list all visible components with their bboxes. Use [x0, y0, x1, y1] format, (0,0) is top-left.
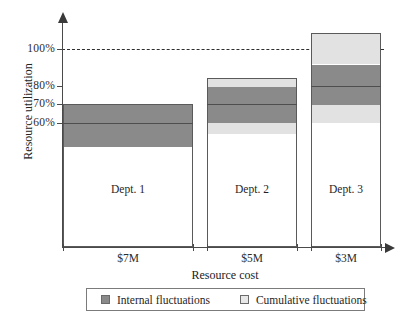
bar-dept1-divider-60 — [63, 123, 193, 124]
x-tick-mark-4 — [311, 244, 312, 251]
x-axis-title: Resource cost — [62, 268, 388, 283]
x-tick-mark-origin — [63, 244, 64, 251]
x-tick-label-7m: $7M — [88, 252, 168, 264]
legend-label-internal: Internal fluctuations — [117, 294, 210, 306]
x-tick-mark-1 — [193, 244, 194, 251]
bar-dept2-divider-70 — [207, 104, 297, 105]
y-tick-mark-100 — [57, 49, 63, 50]
chart-legend: Internal fluctuations Cumulative fluctua… — [86, 288, 365, 311]
y-axis-arrow-icon — [58, 12, 68, 23]
x-tick-mark-2 — [207, 244, 208, 251]
x-tick-label-5m: $5M — [212, 252, 292, 264]
x-axis-arrow-icon — [385, 243, 395, 253]
y-axis-title: Resource utilization — [21, 32, 36, 192]
bar-dept3-band-internal — [312, 65, 380, 105]
bar-dept2-band-cumulative-top — [208, 79, 296, 87]
x-tick-mark-3 — [297, 244, 298, 251]
bar-dept1-label: Dept. 1 — [63, 183, 193, 195]
bar-dept3-label: Dept. 3 — [311, 183, 381, 195]
legend-item-internal: Internal fluctuations — [101, 294, 210, 306]
bar-dept3-divider-82 — [311, 86, 381, 87]
bar-dept1-band-internal — [64, 105, 192, 147]
legend-label-cumulative: Cumulative fluctuations — [256, 294, 367, 306]
y-tick-label-60: 60% — [33, 116, 55, 128]
legend-swatch-cumulative-icon — [240, 295, 249, 304]
stacked-bar-chart: 100% 80% 70% 60% Resource utilization Re… — [0, 0, 407, 326]
bar-dept3-band-cumulative-top — [312, 34, 380, 65]
y-tick-label-70: 70% — [33, 97, 55, 109]
bar-dept2-label: Dept. 2 — [207, 183, 297, 195]
bar-dept2-band-cumulative-bottom — [208, 123, 296, 134]
x-axis-line — [62, 247, 388, 248]
x-tick-label-3m: $3M — [306, 252, 386, 264]
legend-swatch-internal-icon — [101, 295, 110, 304]
y-tick-label-80: 80% — [33, 79, 55, 91]
y-tick-mark-80 — [57, 86, 63, 87]
bar-dept3-band-cumulative-bottom — [312, 105, 380, 123]
legend-item-cumulative: Cumulative fluctuations — [240, 294, 367, 306]
x-tick-mark-5 — [381, 244, 382, 251]
